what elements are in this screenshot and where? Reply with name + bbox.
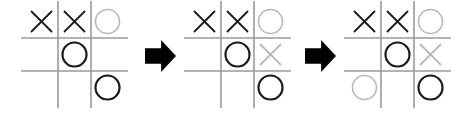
board-1 [19,0,130,110]
mark-x-dark-r0c0 [355,12,375,32]
board-3-grid [342,0,453,110]
mark-x-dark-r0c0 [32,12,52,32]
board-1-grid [19,0,130,110]
mark-x-dark-r0c1 [388,12,408,32]
arrow-1-icon [145,40,176,72]
arrow-right-icon [145,40,176,72]
mark-o-light-r0c2 [259,10,283,34]
mark-o-dark-r2c2 [419,76,443,100]
board-3 [342,0,453,110]
mark-o-dark-r1c1 [386,43,410,67]
mark-o-light-r0c2 [419,10,443,34]
mark-o-dark-r2c2 [96,76,120,100]
mark-o-light-r2c0 [353,76,377,100]
mark-o-dark-r2c2 [259,76,283,100]
mark-x-light-r1c2 [421,45,441,65]
board-2 [182,0,293,110]
mark-x-dark-r0c0 [195,12,215,32]
arrow-2-icon [305,40,336,72]
mark-o-dark-r1c1 [226,43,250,67]
mark-x-dark-r0c1 [65,12,85,32]
mark-o-light-r0c2 [96,10,120,34]
mark-x-dark-r0c1 [228,12,248,32]
arrow-right-icon [305,40,336,72]
mark-x-light-r1c2 [261,45,281,65]
board-2-grid [182,0,293,110]
tic-tac-toe-sequence [0,0,474,119]
mark-o-dark-r1c1 [63,43,87,67]
